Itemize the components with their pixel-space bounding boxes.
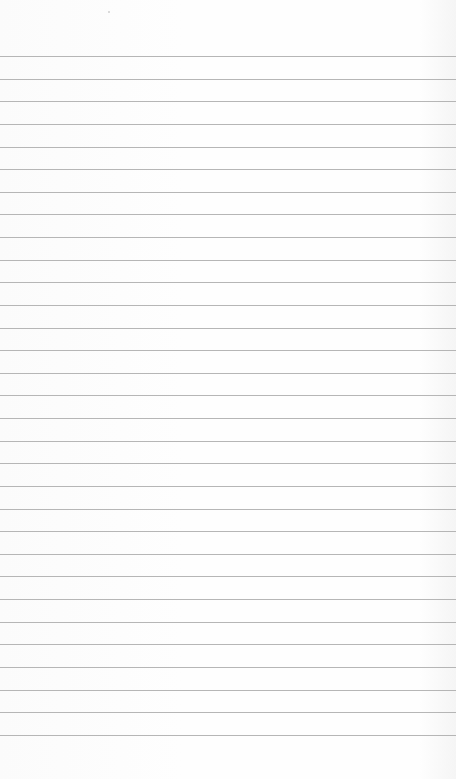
ruled-line — [0, 192, 456, 193]
paper-speck — [108, 11, 110, 13]
ruled-line — [0, 101, 456, 102]
ruled-line — [0, 554, 456, 555]
ruled-line — [0, 169, 456, 170]
ruled-line — [0, 418, 456, 419]
ruled-line — [0, 350, 456, 351]
ruled-line — [0, 214, 456, 215]
ruled-line — [0, 531, 456, 532]
ruled-line — [0, 56, 456, 57]
ruled-line — [0, 690, 456, 691]
ruled-line — [0, 576, 456, 577]
ruled-line — [0, 147, 456, 148]
ruled-line — [0, 124, 456, 125]
ruled-line — [0, 395, 456, 396]
ruled-line — [0, 667, 456, 668]
ruled-line — [0, 282, 456, 283]
ruled-line — [0, 486, 456, 487]
ruled-line — [0, 463, 456, 464]
ruled-line — [0, 509, 456, 510]
ruled-line — [0, 622, 456, 623]
ruled-line — [0, 599, 456, 600]
ruled-line — [0, 373, 456, 374]
ruled-line — [0, 441, 456, 442]
lined-paper-sheet — [0, 0, 456, 779]
ruled-line — [0, 328, 456, 329]
ruled-line — [0, 237, 456, 238]
ruled-line — [0, 644, 456, 645]
ruled-line — [0, 712, 456, 713]
ruled-line — [0, 79, 456, 80]
ruled-line — [0, 735, 456, 736]
ruled-line — [0, 260, 456, 261]
ruled-line — [0, 305, 456, 306]
